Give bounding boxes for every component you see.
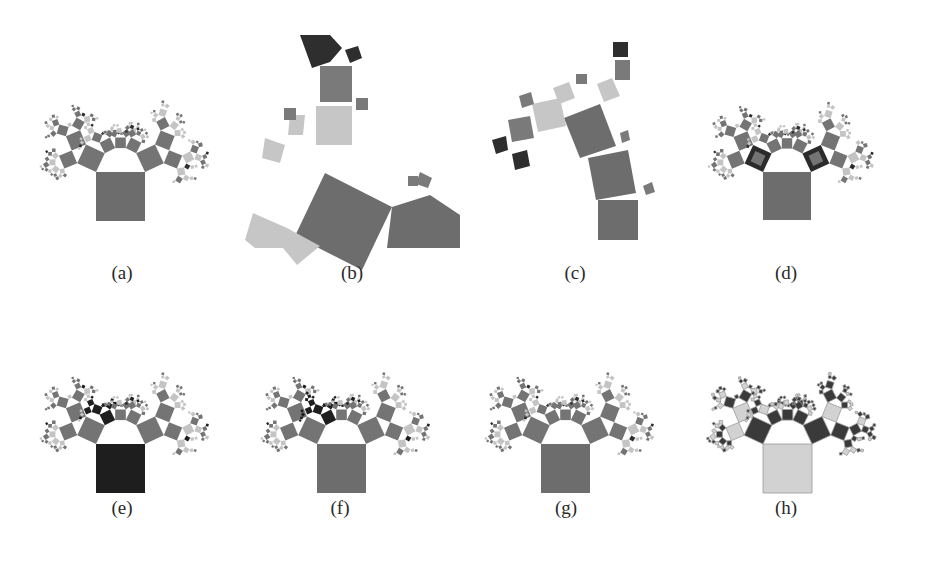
tree-node: [50, 398, 55, 403]
tree-node: [403, 393, 406, 396]
tree-node: [603, 380, 612, 389]
tree-node: [827, 102, 830, 105]
tree-node: [560, 410, 571, 421]
tree-node: [161, 100, 164, 103]
path-node: [512, 150, 530, 170]
tree-node: [726, 422, 744, 440]
tree-node: [734, 394, 739, 399]
tree-node: [744, 417, 772, 445]
tree-node: [742, 112, 749, 119]
tree-node: [50, 130, 57, 137]
tree-node: [346, 402, 349, 405]
zoom-node-tiny: [416, 172, 432, 188]
tree-node: [490, 408, 493, 411]
tree-node: [44, 121, 47, 124]
caption-e: (e): [92, 497, 152, 519]
tree-node: [276, 448, 280, 452]
tree-node: [718, 173, 721, 176]
zoom-node-main: [295, 173, 392, 270]
tree-node: [53, 173, 57, 177]
tree-node: [844, 121, 847, 124]
tree-node: [153, 382, 156, 385]
tree-node: [146, 135, 150, 139]
tree-node: [55, 448, 59, 452]
tree-node: [100, 410, 116, 426]
tree-node: [136, 417, 164, 445]
tree-node: [382, 375, 385, 379]
tree-node: [156, 117, 169, 130]
tree-node: [813, 407, 817, 411]
zoom-node-right: [387, 195, 460, 248]
tree-node: [712, 408, 715, 411]
tree-node: [181, 134, 186, 139]
tree-node: [841, 117, 846, 122]
tree-node: [153, 112, 159, 118]
tree-node: [495, 431, 501, 437]
tree-node: [84, 126, 87, 129]
tree-node: [72, 390, 85, 403]
tree-node: [295, 383, 302, 390]
tree-node: [100, 138, 116, 154]
tree-node: [136, 145, 164, 173]
tree-node: [66, 402, 86, 422]
tree-node: [615, 393, 625, 403]
tree-node: [861, 141, 864, 144]
tree-node: [190, 176, 194, 180]
tree-node: [161, 375, 164, 379]
tree-node: [727, 441, 732, 446]
root-node: [317, 444, 366, 493]
tree-node: [45, 440, 49, 444]
tree-node: [175, 176, 183, 184]
tree-node: [179, 114, 183, 118]
tree-node: [266, 429, 271, 434]
tree-node: [792, 131, 795, 134]
tree-node: [624, 392, 627, 395]
tree-node: [519, 383, 526, 390]
tree-node: [535, 385, 539, 389]
tree-node: [337, 396, 340, 399]
tree-node: [325, 403, 328, 406]
tree-node: [844, 439, 853, 448]
tree-node: [783, 129, 788, 134]
tree-node: [273, 386, 277, 390]
caption-g: (g): [536, 497, 596, 519]
tree-node: [561, 396, 564, 399]
tree-node: [177, 167, 186, 176]
tree-node: [66, 130, 86, 150]
tree-node: [161, 372, 164, 375]
tree-node: [153, 110, 156, 113]
tree-node: [317, 389, 320, 392]
tree-node: [529, 407, 537, 415]
tree-node: [137, 123, 140, 126]
tree-node: [846, 392, 849, 395]
tree-node: [266, 422, 269, 425]
tree-node: [155, 130, 175, 150]
tree-node: [104, 403, 107, 406]
tree-node: [829, 151, 847, 169]
tree-node: [739, 379, 743, 383]
tree-node: [869, 426, 874, 431]
tree-node: [183, 447, 190, 454]
tree-node: [358, 395, 361, 398]
tree-node: [758, 125, 761, 128]
tree-node: [495, 445, 498, 448]
tree-node: [856, 140, 861, 145]
tree-node: [67, 394, 72, 399]
tree-node: [771, 131, 774, 134]
caption-d: (d): [756, 262, 816, 284]
tree-node: [115, 410, 126, 421]
tree-node: [125, 130, 128, 133]
tree-node: [76, 378, 80, 382]
tree-node: [110, 400, 113, 403]
tree-node: [850, 447, 857, 454]
tree-node: [867, 154, 872, 159]
tree-node: [490, 396, 495, 401]
tree-node: [266, 408, 269, 411]
tree-node: [828, 372, 831, 375]
tree-node: [374, 382, 377, 385]
tree-node: [817, 383, 820, 386]
tree-node: [284, 445, 288, 449]
tree-node: [720, 153, 727, 160]
tree-node: [300, 416, 303, 419]
path-node: [598, 200, 638, 240]
